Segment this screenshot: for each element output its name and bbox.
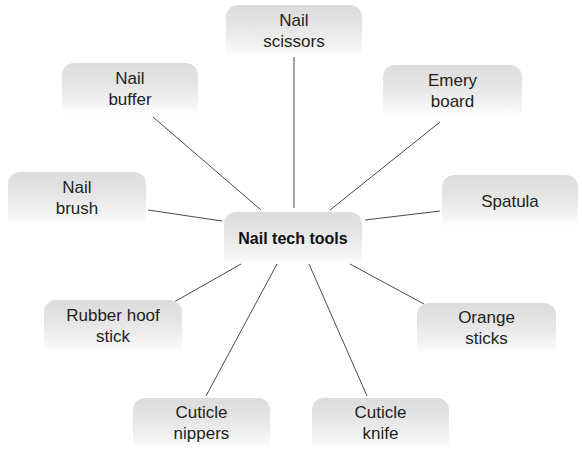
link-orange: [350, 264, 424, 304]
node-center-nail-tech-tools: Nail tech tools: [224, 212, 362, 264]
node-spatula: Spatula: [442, 175, 578, 227]
link-knife: [309, 264, 367, 396]
node-nail-buffer: Nail buffer: [62, 63, 198, 115]
node-cuticle-knife: Cuticle knife: [312, 398, 449, 448]
mind-map-diagram: Nail scissors Nail buffer Emery board Na…: [0, 0, 582, 461]
link-nippers: [206, 264, 277, 396]
link-rubber: [174, 264, 241, 302]
node-cuticle-nippers: Cuticle nippers: [133, 398, 270, 448]
link-brush: [148, 210, 222, 221]
link-emery: [330, 122, 440, 210]
node-rubber-hoof-stick: Rubber hoof stick: [44, 300, 182, 352]
link-buffer: [153, 117, 261, 210]
link-spatula: [365, 211, 440, 220]
node-nail-scissors: Nail scissors: [226, 5, 362, 57]
node-orange-sticks: Orange sticks: [417, 303, 556, 353]
node-emery-board: Emery board: [383, 65, 522, 117]
node-nail-brush: Nail brush: [8, 172, 146, 224]
